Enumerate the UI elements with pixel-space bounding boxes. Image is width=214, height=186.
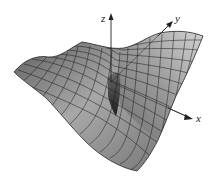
z-axis-label: z — [100, 12, 106, 24]
surface-plot-figure: z y x — [0, 0, 214, 186]
y-axis-label: y — [174, 12, 180, 24]
x-axis-label: x — [195, 112, 201, 124]
surface-mesh — [14, 31, 203, 171]
